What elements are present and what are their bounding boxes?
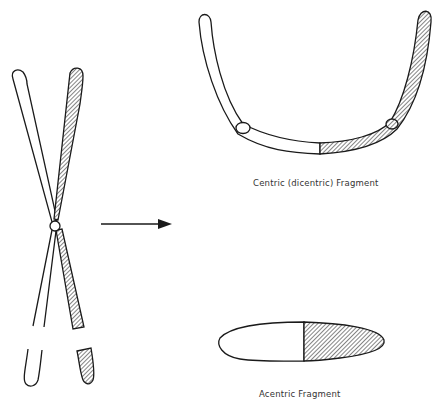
plain-chromatid-upper bbox=[12, 70, 57, 222]
plain-chromatid-lower bbox=[33, 230, 56, 327]
acentric-fragment bbox=[219, 322, 384, 361]
crossed-chromatids bbox=[12, 68, 93, 386]
dicentric-fragment-label: Centric (dicentric) Fragment bbox=[253, 178, 379, 188]
dicentric-fragment bbox=[199, 11, 431, 154]
dicentric-centromere-left bbox=[236, 123, 250, 134]
hatched-chromatid-tip bbox=[77, 348, 94, 384]
acentric-hatched-half bbox=[304, 322, 384, 361]
dicentric-centromere-right bbox=[386, 119, 398, 129]
hatched-chromatid-lower bbox=[56, 229, 84, 329]
dicentric-hatched-portion bbox=[320, 11, 431, 154]
arrow-right-icon bbox=[101, 219, 172, 229]
centromere bbox=[50, 221, 60, 231]
plain-chromatid-tip bbox=[24, 349, 42, 386]
acentric-plain-half bbox=[219, 322, 304, 361]
diagram-canvas bbox=[0, 0, 438, 411]
dicentric-plain-portion bbox=[199, 15, 320, 155]
hatched-chromatid-upper bbox=[54, 68, 83, 220]
acentric-fragment-label: Acentric Fragment bbox=[259, 389, 341, 399]
